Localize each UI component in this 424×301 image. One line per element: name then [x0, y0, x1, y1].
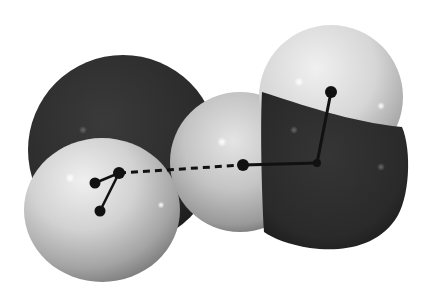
nucleus-oxygen-right [313, 159, 321, 167]
nucleus-hydrogen-2b [325, 86, 337, 98]
nucleus-hydrogen-bridging [237, 159, 249, 171]
nucleus-oxygen-left [113, 167, 125, 179]
molecule-diagram [0, 0, 424, 301]
water-dimer-figure [0, 0, 424, 301]
nucleus-hydrogen-1a [90, 178, 101, 189]
covalent-bond-h2a-o2 [243, 163, 317, 165]
nucleus-hydrogen-1b [95, 206, 106, 217]
figure-caption [0, 287, 424, 301]
